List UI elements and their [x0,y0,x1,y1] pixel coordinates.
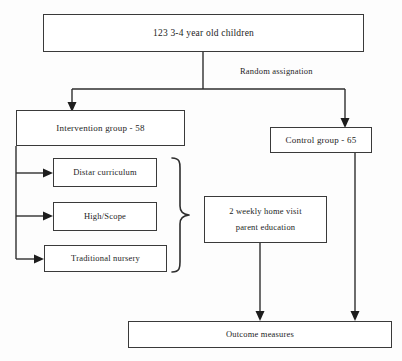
node-outcome-measures[interactable]: Outcome measures [128,321,392,348]
node-home-visit-line2: parent education [205,223,326,233]
node-distar-curriculum-label: Distar curriculum [54,168,156,178]
arrowhead-traditional [34,255,44,264]
node-control-group-label: Control group - 65 [271,135,371,145]
edge-label-randomisation-text: Random assignation [240,66,313,76]
node-traditional-nursery[interactable]: Traditional nursery [44,245,167,272]
node-cohort[interactable]: 123 3-4 year old children [43,14,364,52]
node-outcome-measures-label: Outcome measures [129,330,391,340]
node-intervention-group[interactable]: Intervention group - 58 [16,110,185,146]
node-distar-curriculum[interactable]: Distar curriculum [53,158,157,187]
arrowhead-highscope [43,212,53,221]
arrowhead-distar [43,169,53,178]
flowchart-canvas: 123 3-4 year old children Random assigna… [0,0,402,361]
node-high-scope[interactable]: High/Scope [53,202,157,231]
node-control-group[interactable]: Control group - 65 [270,127,372,153]
grouping-brace [172,158,189,272]
node-home-visit[interactable]: 2 weekly home visit parent education [204,196,327,243]
node-intervention-group-label: Intervention group - 58 [17,123,184,133]
arrowhead-outcome-right [351,311,360,321]
edge-label-randomisation: Random assignation [240,66,313,76]
node-traditional-nursery-label: Traditional nursery [45,254,166,264]
node-home-visit-line1: 2 weekly home visit [205,207,326,217]
node-cohort-label: 123 3-4 year old children [44,28,363,39]
node-high-scope-label: High/Scope [54,212,156,222]
arrowhead-outcome-left [256,311,265,321]
